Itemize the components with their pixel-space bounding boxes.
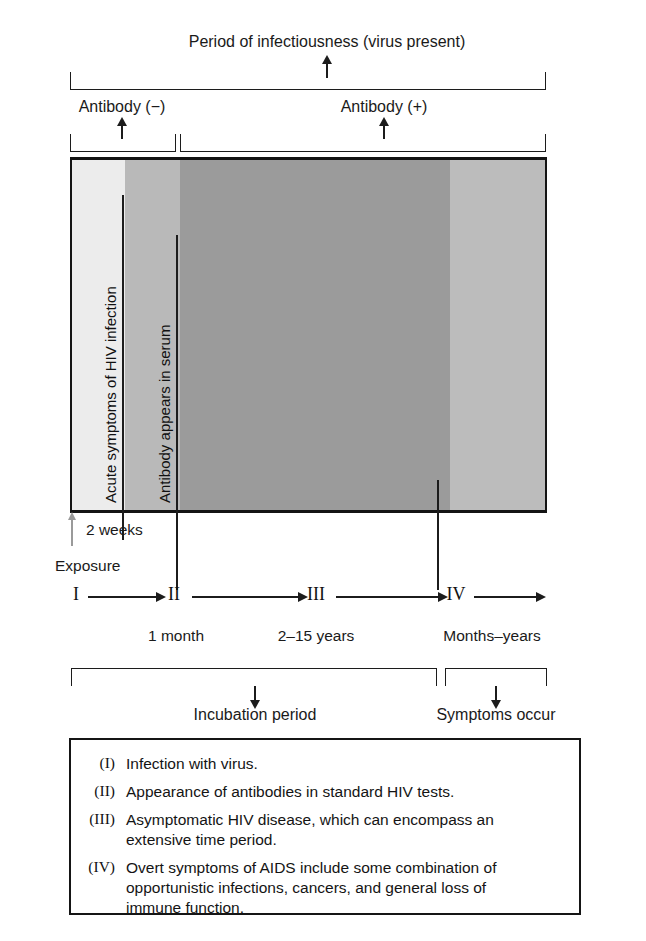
duration-two-fifteen-years: 2–15 years <box>278 627 355 645</box>
antibody-positive-bracket <box>180 134 546 152</box>
antibody-positive-label: Antibody (+) <box>341 98 428 116</box>
antibody-serum-label: Antibody appears in serum <box>156 325 173 503</box>
acute-symptoms-tick <box>122 195 124 540</box>
figure-top-title: Period of infectiousness (virus present) <box>189 33 466 51</box>
symptoms-occur-label: Symptoms occur <box>436 706 555 724</box>
incubation-period-label: Incubation period <box>194 706 317 724</box>
legend-box: (I) Infection with virus. (II) Appearanc… <box>69 738 581 915</box>
hiv-infection-timeline-figure: Period of infectiousness (virus present)… <box>0 0 646 941</box>
legend-text-iv: Overt symptoms of AIDS include some comb… <box>126 858 523 918</box>
legend-numeral-iv: (IV) <box>71 858 126 876</box>
timeline-arrow-i-to-ii <box>88 596 158 598</box>
legend-numeral-ii: (II) <box>71 782 126 800</box>
acute-symptoms-label: Acute symptoms of HIV infection <box>102 286 119 503</box>
incubation-arrow <box>254 686 256 702</box>
duration-months-years: Months–years <box>443 627 540 645</box>
legend-text-i: Infection with virus. <box>126 754 258 774</box>
antibody-negative-label: Antibody (−) <box>79 98 166 116</box>
legend-item-ii: (II) Appearance of antibodies in standar… <box>71 782 563 802</box>
exposure-label: Exposure <box>55 557 120 575</box>
antibody-negative-bracket <box>70 134 176 152</box>
symptoms-bracket <box>445 668 547 686</box>
antibody-serum-tick <box>176 235 178 590</box>
timeline-arrow-ii-to-iii <box>192 596 300 598</box>
legend-item-iii: (III) Asymptomatic HIV disease, which ca… <box>71 810 519 850</box>
exposure-arrow <box>71 518 73 546</box>
timeline-arrow-iii-to-iv <box>336 596 440 598</box>
two-weeks-label: 2 weeks <box>86 521 143 539</box>
legend-numeral-iii: (III) <box>71 810 126 828</box>
chart-area <box>70 160 546 510</box>
legend-item-i: (I) Infection with virus. <box>71 754 563 774</box>
stage-numeral-iii: III <box>307 584 325 605</box>
symptomatic-gray-band <box>450 160 546 510</box>
stage-numeral-iv: IV <box>447 584 466 605</box>
incubation-bracket <box>71 668 437 686</box>
legend-text-iii: Asymptomatic HIV disease, which can enco… <box>126 810 519 850</box>
stage-four-tick <box>437 480 439 590</box>
legend-text-ii: Appearance of antibodies in standard HIV… <box>126 782 454 802</box>
chart-right-border <box>545 158 547 512</box>
infectiousness-bracket <box>70 72 546 90</box>
chart-bottom-border <box>70 510 547 513</box>
timeline-arrow-iv-end <box>474 596 538 598</box>
legend-numeral-i: (I) <box>71 754 126 772</box>
legend-item-iv: (IV) Overt symptoms of AIDS include some… <box>71 858 523 918</box>
stage-numeral-i: I <box>73 584 79 605</box>
duration-one-month: 1 month <box>148 627 204 645</box>
symptoms-arrow <box>495 686 497 702</box>
asymptomatic-dark-band <box>180 160 450 510</box>
stage-numeral-ii: II <box>168 584 180 605</box>
chart-left-border <box>70 158 72 512</box>
